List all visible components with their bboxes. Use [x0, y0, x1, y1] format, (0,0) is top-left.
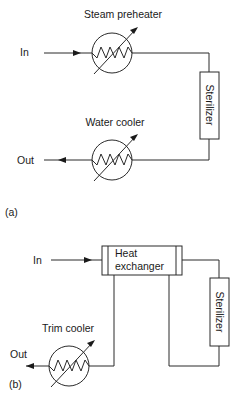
outlet-label-b: Out — [10, 348, 27, 360]
panel-b-label: (b) — [9, 378, 22, 390]
steam-preheater-icon — [92, 27, 138, 74]
sterilizer-a: Sterilizer — [200, 72, 219, 139]
outlet-stream-a — [44, 157, 92, 163]
pipe-preheater-to-sterilizer — [132, 53, 209, 72]
sterilization-flow-diagram: Steam preheater In Sterilizer Water cool… — [0, 0, 240, 404]
pipe-hx-to-sterilizer — [182, 260, 219, 278]
pipe-sterilizer-to-cooler — [132, 139, 209, 160]
trim-cooler-label: Trim cooler — [42, 322, 95, 334]
panel-a-label: (a) — [5, 206, 18, 218]
heat-exchanger-label-line2: exchanger — [115, 260, 165, 272]
outlet-label-a: Out — [17, 154, 34, 166]
panel-b: In Heat exchanger Sterilizer Trim cooler — [9, 246, 229, 390]
inlet-label-b: In — [33, 254, 42, 266]
trim-cooler-icon — [49, 340, 95, 387]
sterilizer-b-label: Sterilizer — [214, 292, 226, 333]
heat-exchanger-label-line1: Heat — [115, 247, 137, 259]
inlet-label-a: In — [20, 46, 29, 58]
heat-exchanger: Heat exchanger — [102, 246, 182, 275]
sterilizer-b: Sterilizer — [210, 278, 229, 346]
sterilizer-a-label: Sterilizer — [204, 85, 216, 126]
inlet-stream-a — [44, 50, 92, 56]
water-cooler-icon — [92, 134, 138, 181]
panel-a: Steam preheater In Sterilizer Water cool… — [5, 8, 219, 218]
outlet-stream-b — [26, 363, 49, 369]
inlet-stream-b — [51, 257, 102, 263]
water-cooler-label: Water cooler — [85, 116, 145, 128]
pipe-hx-to-trim-cooler — [89, 275, 114, 366]
steam-preheater-label: Steam preheater — [84, 8, 163, 20]
